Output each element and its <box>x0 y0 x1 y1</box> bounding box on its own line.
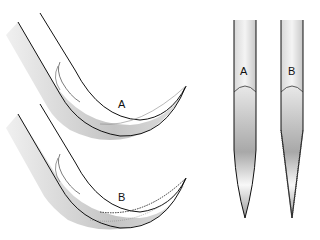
needle-diagram: A B A B <box>0 0 320 240</box>
curved-needle-a: A <box>6 13 186 140</box>
needle-illustration: A B A B <box>0 0 320 240</box>
label-curved-b: B <box>118 191 125 203</box>
straight-needle-b: B <box>281 20 303 218</box>
label-curved-a: A <box>118 98 126 110</box>
label-straight-b: B <box>288 65 295 77</box>
label-straight-a: A <box>240 65 248 77</box>
straight-needle-a: A <box>234 20 256 218</box>
